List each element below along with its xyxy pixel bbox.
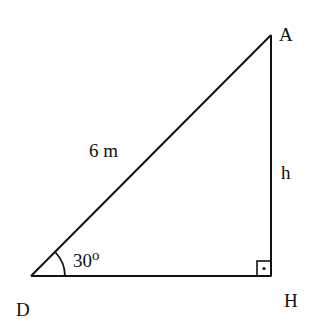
vertex-label-H: H	[284, 290, 298, 311]
triangle-diagram: A h H D 6 m 30o	[0, 0, 319, 331]
angle-arc-D	[56, 253, 66, 277]
right-angle-dot	[262, 267, 265, 270]
vertex-label-A: A	[279, 24, 293, 45]
degree-symbol: o	[92, 247, 100, 263]
side-hypotenuse-DA	[31, 35, 271, 276]
side-label-hypotenuse: 6 m	[89, 140, 118, 161]
angle-label: 30o	[73, 247, 100, 271]
side-label-height: h	[281, 162, 291, 183]
angle-value: 30	[73, 250, 92, 271]
vertex-label-D: D	[16, 299, 30, 320]
